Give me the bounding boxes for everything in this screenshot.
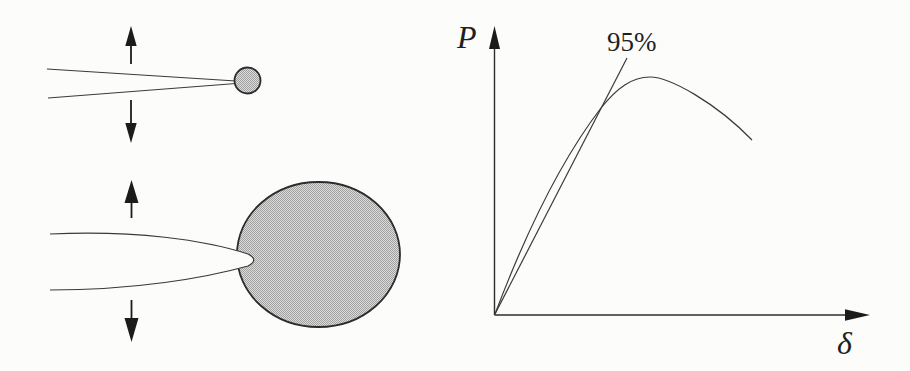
arrow-up-icon bbox=[125, 180, 139, 203]
figure-canvas: P 95% δ bbox=[0, 0, 910, 371]
fracture-figure-svg: P 95% δ bbox=[0, 0, 910, 371]
y-axis-arrow-up-icon bbox=[489, 26, 500, 49]
blunted-crack bbox=[50, 233, 254, 290]
large-plastic-zone bbox=[237, 182, 400, 327]
arrow-down-icon bbox=[125, 123, 136, 143]
load-displacement-graph: P 95% δ bbox=[456, 19, 870, 362]
small-scale-yielding-diagram bbox=[47, 26, 261, 143]
secant-annotation-label: 95% bbox=[607, 27, 657, 57]
load-displacement-curve bbox=[495, 77, 752, 314]
x-axis-arrow-right-icon bbox=[845, 309, 870, 321]
arrow-up-icon bbox=[125, 26, 136, 46]
x-axis-label: δ bbox=[837, 325, 853, 361]
small-plastic-zone bbox=[235, 68, 261, 94]
sharp-crack-lower-face bbox=[48, 84, 236, 99]
arrow-down-icon bbox=[125, 318, 139, 342]
secant-line-95-percent bbox=[495, 58, 627, 314]
sharp-crack-upper-face bbox=[47, 69, 236, 81]
large-scale-yielding-diagram bbox=[50, 180, 400, 342]
y-axis-label: P bbox=[456, 19, 477, 55]
